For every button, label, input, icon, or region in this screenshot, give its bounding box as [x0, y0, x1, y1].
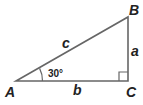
vertex-label-c: C [126, 84, 137, 100]
vertex-label-a: A [4, 84, 15, 100]
angle-label: 30° [48, 68, 63, 79]
side-label-c: c [62, 35, 70, 51]
triangle-abc [16, 17, 128, 81]
side-label-b: b [73, 82, 82, 98]
triangle-diagram: B A C c a b 30° [0, 0, 143, 105]
right-angle-marker [119, 72, 128, 81]
angle-arc [40, 68, 43, 81]
vertex-label-b: B [129, 2, 139, 18]
side-label-a: a [131, 43, 139, 59]
